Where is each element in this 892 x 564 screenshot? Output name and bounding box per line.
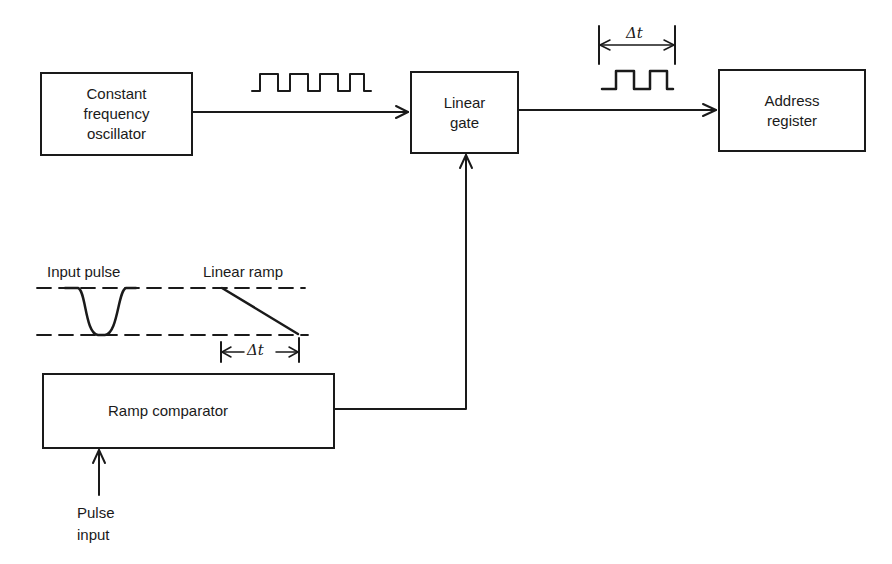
address-register-label-1: Address <box>764 91 819 111</box>
delta-t-top-label: Δt <box>626 24 643 42</box>
pulse-input-label: Pulse input <box>77 502 115 546</box>
pulse-input-label-1: Pulse <box>77 502 115 524</box>
delta-t-ramp-label: Δt <box>247 341 264 359</box>
oscillator-block: Constant frequency oscillator <box>40 72 193 156</box>
oscillator-label-3: oscillator <box>84 124 150 144</box>
wire-comparator-to-gate <box>334 155 466 409</box>
linear-ramp-icon <box>222 288 298 334</box>
oscillator-label-2: frequency <box>84 104 150 124</box>
linear-gate-label-2: gate <box>444 113 486 133</box>
address-register-label-2: register <box>764 111 819 131</box>
input-pulse-icon <box>65 288 136 335</box>
oscillator-label-1: Constant <box>84 84 150 104</box>
ramp-comparator-block: Ramp comparator <box>42 373 335 449</box>
pulse-input-label-2: input <box>77 524 115 546</box>
square-wave-icon <box>252 74 371 91</box>
linear-gate-label-1: Linear <box>444 93 486 113</box>
gated-pulses-icon <box>602 71 673 89</box>
input-pulse-label: Input pulse <box>47 262 120 282</box>
linear-gate-block: Linear gate <box>410 71 519 154</box>
linear-ramp-label: Linear ramp <box>203 262 283 282</box>
address-register-block: Address register <box>718 69 866 152</box>
ramp-comparator-label: Ramp comparator <box>108 401 228 421</box>
